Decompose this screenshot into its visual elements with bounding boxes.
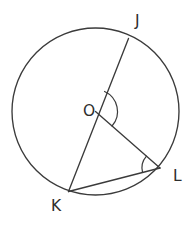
point-label-j: J [134,12,140,30]
point-label-o: O [83,102,95,120]
geometry-canvas: J O K L [0,0,191,227]
segment-chord-kl [69,168,161,192]
geometry-figure: J O K L [0,0,191,227]
point-label-k: K [51,197,62,215]
point-label-l: L [173,167,182,185]
segment-radius-ol [96,112,161,169]
angle-mark-l-icon [142,156,146,172]
